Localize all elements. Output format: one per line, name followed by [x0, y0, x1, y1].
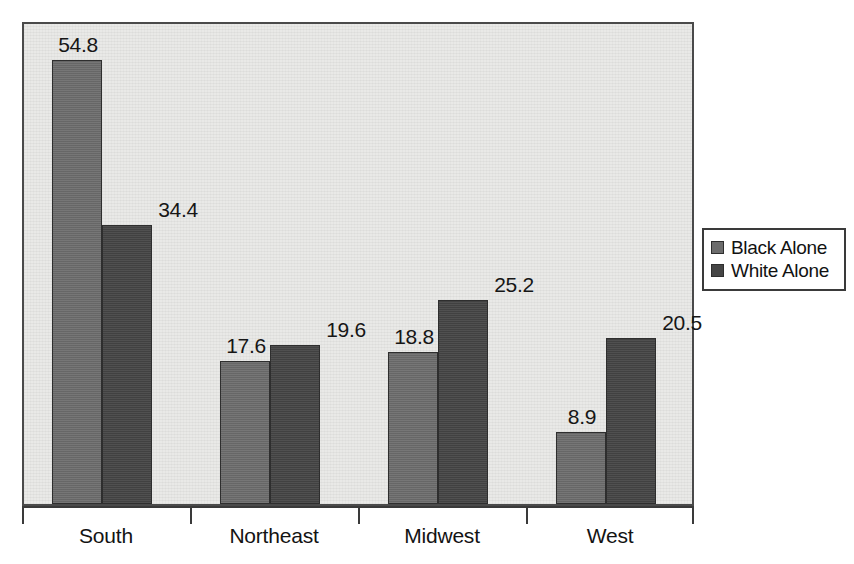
bar-northeast-black-alone[interactable]: 17.6 [220, 361, 270, 504]
bar-group-northeast: 17.6 19.6 [220, 24, 320, 504]
x-axis-labels: South Northeast Midwest West [22, 524, 694, 556]
bar-group-south: 54.8 34.4 [52, 24, 152, 504]
legend-item-white-alone[interactable]: White Alone [711, 259, 837, 282]
x-axis-label-west: West [526, 524, 694, 548]
x-axis-tick [22, 508, 24, 524]
bar-northeast-white-alone[interactable]: 19.6 [270, 345, 320, 504]
legend-label-black-alone: Black Alone [731, 237, 827, 259]
bar-label-south-white-alone: 34.4 [143, 198, 213, 222]
bar-group-midwest: 18.8 25.2 [388, 24, 488, 504]
legend-swatch-white-alone-icon [711, 264, 724, 277]
chart-legend: Black Alone White Alone [702, 228, 846, 291]
x-axis-tick [358, 508, 360, 524]
bar-label-south-black-alone: 54.8 [43, 33, 113, 57]
x-axis-tick [692, 508, 694, 524]
bar-west-black-alone[interactable]: 8.9 [556, 432, 606, 504]
x-axis-label-south: South [22, 524, 190, 548]
bar-midwest-black-alone[interactable]: 18.8 [388, 352, 438, 504]
x-axis-label-midwest: Midwest [358, 524, 526, 548]
legend-label-white-alone: White Alone [731, 260, 829, 282]
legend-swatch-black-alone-icon [711, 241, 724, 254]
bar-midwest-white-alone[interactable]: 25.2 [438, 300, 488, 504]
x-axis-tick [190, 508, 192, 524]
plot-area: 54.8 34.4 17.6 19.6 18.8 25.2 [22, 22, 694, 506]
x-axis-tick [526, 508, 528, 524]
bar-label-midwest-white-alone: 25.2 [479, 273, 549, 297]
x-axis [22, 506, 694, 508]
bar-chart: 54.8 34.4 17.6 19.6 18.8 25.2 [0, 0, 854, 564]
bar-west-white-alone[interactable]: 20.5 [606, 338, 656, 504]
legend-item-black-alone[interactable]: Black Alone [711, 236, 837, 259]
bar-south-black-alone[interactable]: 54.8 [52, 60, 102, 504]
bar-label-northeast-white-alone: 19.6 [311, 318, 381, 342]
bar-south-white-alone[interactable]: 34.4 [102, 225, 152, 504]
bar-label-west-white-alone: 20.5 [647, 311, 717, 335]
x-axis-label-northeast: Northeast [190, 524, 358, 548]
bar-group-west: 8.9 20.5 [556, 24, 656, 504]
